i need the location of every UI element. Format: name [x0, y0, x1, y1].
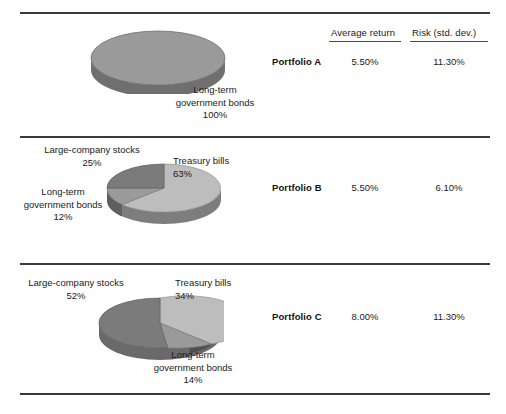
pie-c-label-long-term-bonds: Long-term government bonds 14% — [128, 349, 258, 387]
pie-b-bonds-label-percent: 12% — [8, 211, 118, 224]
pie-c-bonds-label-percent: 14% — [128, 374, 258, 387]
cell-average-return-portfolio-c: 8.00% — [329, 311, 401, 322]
row-label-portfolio-a: Portfolio A — [272, 56, 321, 67]
cell-average-return-portfolio-a: 5.50% — [329, 56, 401, 67]
divider-rule-a-b — [20, 136, 490, 138]
pie-c-bonds-label-line2: government bonds — [128, 362, 258, 375]
column-header-average-return: Average return — [331, 27, 395, 38]
pie-b-stocks-label-percent: 25% — [28, 157, 156, 170]
column-header-risk: Risk (std. dev.) — [412, 27, 476, 38]
portfolio-comparison-figure: Average return Risk (std. dev.) Long-ter… — [0, 0, 506, 414]
pie-c-treasury-label-percent: 34% — [175, 290, 285, 303]
pie-b-treasury-label-line1: Treasury bills — [173, 155, 283, 168]
pie-c-treasury-label-line1: Treasury bills — [175, 277, 285, 290]
column-header-underline-average-return — [329, 41, 401, 42]
pie-a-label-percent: 100% — [150, 109, 280, 122]
pie-a-label-line2: government bonds — [150, 97, 280, 110]
row-label-portfolio-b: Portfolio B — [272, 182, 322, 193]
divider-rule-b-c — [20, 263, 490, 265]
pie-b-bonds-label-line2: government bonds — [8, 199, 118, 212]
pie-c-label-treasury-bills: Treasury bills 34% — [175, 277, 285, 302]
pie-c-bonds-label-line1: Long-term — [128, 349, 258, 362]
pie-a-label-line1: Long-term — [150, 84, 280, 97]
pie-b-bonds-label-line1: Long-term — [8, 186, 118, 199]
cell-risk-portfolio-c: 11.30% — [410, 311, 488, 322]
top-rule — [20, 12, 490, 14]
pie-a-slice-long-term-bonds — [91, 31, 225, 85]
pie-c-label-large-company-stocks: Large-company stocks 52% — [12, 277, 140, 302]
row-label-portfolio-c: Portfolio C — [272, 311, 322, 322]
pie-a-label-long-term-bonds: Long-term government bonds 100% — [150, 84, 280, 122]
cell-average-return-portfolio-b: 5.50% — [329, 182, 401, 193]
pie-c-stocks-label-percent: 52% — [12, 290, 140, 303]
pie-b-treasury-label-percent: 63% — [173, 168, 283, 181]
column-header-underline-risk — [410, 41, 488, 42]
pie-c-stocks-label-line1: Large-company stocks — [12, 277, 140, 290]
pie-b-label-treasury-bills: Treasury bills 63% — [173, 155, 283, 180]
pie-b-stocks-label-line1: Large-company stocks — [28, 144, 156, 157]
pie-b-label-large-company-stocks: Large-company stocks 25% — [28, 144, 156, 169]
cell-risk-portfolio-a: 11.30% — [410, 56, 488, 67]
bottom-rule — [20, 393, 490, 395]
pie-b-label-long-term-bonds: Long-term government bonds 12% — [8, 186, 118, 224]
cell-risk-portfolio-b: 6.10% — [410, 182, 488, 193]
